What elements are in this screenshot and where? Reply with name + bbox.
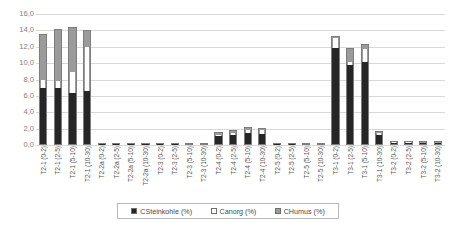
bar-segment-csteinkohle bbox=[347, 65, 353, 144]
stacked-bar[interactable] bbox=[156, 143, 164, 145]
stacked-bar[interactable] bbox=[244, 127, 252, 145]
bar-slot[interactable] bbox=[185, 14, 193, 145]
stacked-bar[interactable] bbox=[83, 30, 91, 145]
bar-slot[interactable] bbox=[375, 14, 383, 145]
bar-slot[interactable] bbox=[39, 14, 47, 145]
y-axis-tick-label: 16,0 bbox=[0, 10, 34, 18]
stacked-bar[interactable] bbox=[302, 143, 310, 145]
x-axis-tick-label: T3-2 (0-2) bbox=[390, 146, 397, 175]
stacked-bar[interactable] bbox=[141, 143, 149, 145]
x-axis-tick-label: T2-1 (5-10) bbox=[69, 146, 76, 178]
bar-segment-chumus bbox=[40, 35, 46, 79]
bar-segment-csteinkohle bbox=[332, 48, 338, 144]
x-axis-tick-label: T2-3 (10-30) bbox=[200, 146, 207, 182]
legend-item[interactable]: CSteinkohle (%) bbox=[131, 207, 192, 216]
stacked-bar[interactable] bbox=[68, 27, 76, 145]
stacked-bar[interactable] bbox=[258, 128, 266, 145]
stacked-bar[interactable] bbox=[171, 143, 179, 145]
stacked-bar[interactable] bbox=[331, 36, 339, 145]
stacked-bar[interactable] bbox=[419, 141, 427, 145]
bar-slot[interactable] bbox=[83, 14, 91, 145]
bar-slot[interactable] bbox=[331, 14, 339, 145]
y-axis-tick-label: 6,0 bbox=[0, 92, 34, 100]
bar-segment-csteinkohle bbox=[362, 62, 368, 144]
bar-segment-csteinkohle bbox=[259, 134, 265, 144]
bar-slot[interactable] bbox=[288, 14, 296, 145]
bar-slot[interactable] bbox=[390, 14, 398, 145]
bar-slot[interactable] bbox=[346, 14, 354, 145]
bar-slot[interactable] bbox=[141, 14, 149, 145]
bar-slot[interactable] bbox=[156, 14, 164, 145]
bar-segment-canorg bbox=[69, 72, 75, 92]
stacked-bar[interactable] bbox=[273, 143, 281, 145]
stacked-bar[interactable] bbox=[54, 29, 62, 145]
y-axis-tick-label: 14,0 bbox=[0, 26, 34, 34]
legend-label: CSteinkohle (%) bbox=[140, 207, 192, 216]
legend-item[interactable]: Canorg (%) bbox=[211, 207, 257, 216]
bar-slot[interactable] bbox=[258, 14, 266, 145]
bar-segment-chumus bbox=[69, 28, 75, 72]
stacked-bar[interactable] bbox=[214, 132, 222, 145]
stacked-bar[interactable] bbox=[200, 143, 208, 145]
stacked-bar[interactable] bbox=[404, 141, 412, 146]
x-axis-tick-label: T2-2a (0-2) bbox=[98, 146, 105, 178]
x-axis-tick-label: T3-2 (2-5) bbox=[405, 146, 412, 175]
y-axis: 16,014,012,010,08,06,04,02,00,0 bbox=[0, 14, 34, 145]
stacked-bar[interactable] bbox=[127, 143, 135, 145]
bar-slot[interactable] bbox=[317, 14, 325, 145]
x-axis-tick-label: T2-1 (0-2) bbox=[40, 146, 47, 175]
x-axis-tick-label: T3-2 (10-30) bbox=[434, 146, 441, 182]
x-axis-tick-label: T2-2a (2-5) bbox=[113, 146, 120, 178]
y-axis-tick-label: 4,0 bbox=[0, 108, 34, 116]
bar-slot[interactable] bbox=[127, 14, 135, 145]
bar-segment-chumus bbox=[55, 30, 61, 82]
stacked-bar[interactable] bbox=[361, 44, 369, 145]
bar-slot[interactable] bbox=[214, 14, 222, 145]
x-axis-tick-label: T2-3 (0-2) bbox=[157, 146, 164, 175]
gray-square-swatch bbox=[275, 208, 281, 214]
stacked-bar[interactable] bbox=[317, 143, 325, 145]
bar-slot[interactable] bbox=[302, 14, 310, 145]
bar-slot[interactable] bbox=[68, 14, 76, 145]
bar-slot[interactable] bbox=[112, 14, 120, 145]
bar-segment-chumus bbox=[84, 31, 90, 47]
x-axis-tick-label: T2-4 (0-2) bbox=[215, 146, 222, 175]
bar-slot[interactable] bbox=[244, 14, 252, 145]
x-axis-tick-label: T2-2a (5-10) bbox=[127, 146, 134, 182]
bar-segment-csteinkohle bbox=[435, 143, 441, 144]
legend-item[interactable]: CHumus (%) bbox=[275, 207, 325, 216]
stacked-bar[interactable] bbox=[288, 143, 296, 145]
stacked-bar[interactable] bbox=[229, 130, 237, 145]
bar-slot[interactable] bbox=[273, 14, 281, 145]
stacked-bar[interactable] bbox=[39, 34, 47, 145]
bar-segment-csteinkohle bbox=[391, 143, 397, 144]
bar-slot[interactable] bbox=[404, 14, 412, 145]
bar-slot[interactable] bbox=[98, 14, 106, 145]
stacked-bar[interactable] bbox=[375, 131, 383, 145]
stacked-bar[interactable] bbox=[346, 48, 354, 145]
bar-segment-canorg bbox=[55, 81, 61, 88]
bar-slot[interactable] bbox=[171, 14, 179, 145]
legend-label: CHumus (%) bbox=[284, 207, 325, 216]
bar-slot[interactable] bbox=[200, 14, 208, 145]
bar-slot[interactable] bbox=[229, 14, 237, 145]
x-axis-tick-label: T2-5 (2-5) bbox=[288, 146, 295, 175]
stacked-bar[interactable] bbox=[390, 141, 398, 146]
bar-slot[interactable] bbox=[361, 14, 369, 145]
x-axis-tick-label: T2-1 (10-30) bbox=[84, 146, 91, 182]
bar-segment-canorg bbox=[40, 80, 46, 88]
plot-area bbox=[36, 14, 445, 145]
stacked-bar[interactable] bbox=[112, 143, 120, 145]
chart-legend: CSteinkohle (%)Canorg (%)CHumus (%) bbox=[117, 203, 339, 219]
stacked-bar[interactable] bbox=[185, 143, 193, 145]
bar-slot[interactable] bbox=[54, 14, 62, 145]
bar-segment-csteinkohle bbox=[215, 136, 221, 144]
bar-slot[interactable] bbox=[419, 14, 427, 145]
bar-segment-csteinkohle bbox=[245, 133, 251, 144]
bar-segment-csteinkohle bbox=[230, 135, 236, 144]
bar-slot[interactable] bbox=[434, 14, 442, 145]
x-axis-tick-label: T3-1 (0-2) bbox=[332, 146, 339, 175]
stacked-bar[interactable] bbox=[98, 143, 106, 145]
stacked-bar[interactable] bbox=[434, 141, 442, 145]
x-axis: T2-1 (0-2)T2-1 (2-5)T2-1 (5-10)T2-1 (10-… bbox=[36, 146, 445, 200]
